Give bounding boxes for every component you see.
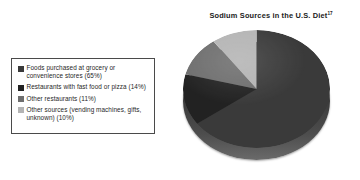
legend-item-label: Foods purchased at grocery or convenienc… — [27, 64, 150, 80]
legend-swatch-icon — [18, 66, 24, 72]
pie-face — [183, 30, 330, 148]
pie-chart — [183, 30, 330, 168]
legend-swatch-icon — [18, 96, 24, 102]
legend-swatch-icon — [18, 85, 24, 91]
chart-title: Sodium Sources in the U.S. Diet17 — [186, 9, 356, 21]
legend-item[interactable]: Other sources (vending machines, gifts, … — [18, 106, 149, 122]
chart-legend: Foods purchased at grocery or convenienc… — [11, 58, 155, 134]
pie-chart-figure: Sodium Sources in the U.S. Diet17 Foods … — [0, 0, 360, 180]
legend-item[interactable]: Restaurants with fast food or pizza (14%… — [18, 83, 149, 91]
chart-title-text: Sodium Sources in the U.S. Diet — [209, 11, 327, 20]
legend-item[interactable]: Foods purchased at grocery or convenienc… — [18, 64, 149, 80]
legend-item[interactable]: Other restaurants (11%) — [18, 95, 149, 103]
legend-item-label: Restaurants with fast food or pizza (14%… — [27, 83, 146, 91]
legend-item-label: Other sources (vending machines, gifts, … — [27, 106, 150, 122]
legend-swatch-icon — [18, 107, 24, 113]
chart-title-superscript: 17 — [327, 11, 332, 16]
legend-item-label: Other restaurants (11%) — [27, 95, 96, 103]
pie-slices — [183, 30, 330, 148]
